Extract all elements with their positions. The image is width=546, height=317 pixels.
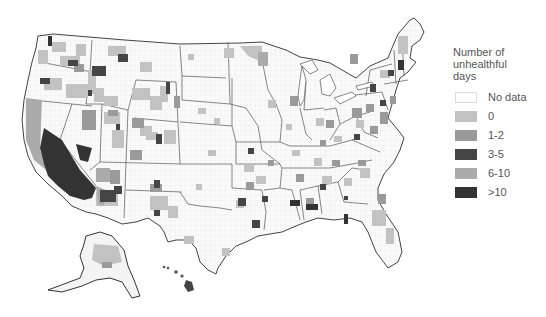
legend-swatch-no-data [455,92,477,103]
legend-label: 6-10 [488,167,510,179]
legend-swatch-over-10 [455,187,477,198]
legend-title-line-3: days [453,70,546,82]
legend-label: No data [488,91,527,103]
legend-title-line-1: Number of [453,46,546,58]
legend-label: 3-5 [488,148,504,160]
legend-swatch-3-5 [455,149,477,160]
legend-swatch-1-2 [455,130,477,141]
legend-swatch-6-10 [455,168,477,179]
legend-label: 0 [488,110,494,122]
legend-title-line-2: unhealthful [453,58,546,70]
hawaii [163,266,194,292]
legend-label: 1-2 [488,129,504,141]
legend-swatch-0 [455,111,477,122]
legend-label: >10 [488,186,507,198]
alaska [48,232,140,298]
legend-title: Number of unhealthful days [453,46,546,82]
legend: Number of unhealthful days No data 0 1-2… [453,46,546,91]
